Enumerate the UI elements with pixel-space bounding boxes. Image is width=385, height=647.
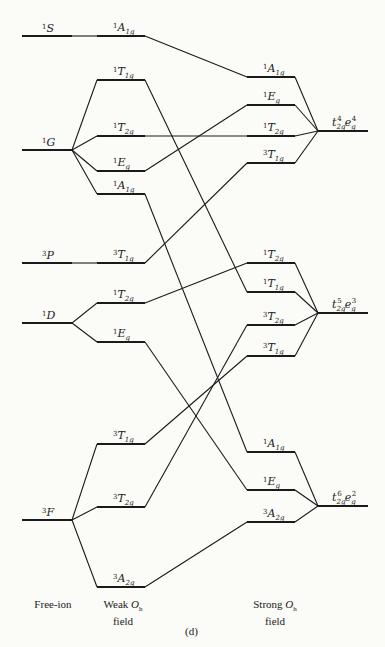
weak-to-strong-line (145, 356, 247, 444)
weak-to-strong-line (145, 194, 247, 452)
weak-to-strong-line (145, 522, 247, 587)
correlation-lines (72, 36, 318, 587)
strong-label-s5: 1T2g (263, 248, 284, 263)
strong-label-s1: 1A1g (263, 62, 285, 77)
strong-label-s10: 1Eg (263, 475, 281, 490)
strong-field-text: field (265, 615, 285, 627)
free-ion-label-3P: 3P (42, 249, 54, 262)
figure-caption: (d) (185, 625, 198, 637)
weak-label-w4: 1Eg (113, 156, 131, 171)
weak-field-column-label: Weak Oh field (88, 598, 158, 627)
strong-to-config-line (295, 292, 318, 313)
free-ion-levels: 1S1G3P1D3F (22, 22, 72, 520)
free-to-weak-line (72, 80, 97, 150)
weak-label-w3: 1T2g (113, 121, 134, 136)
strong-label-s8: 3T1g (263, 341, 284, 356)
strong-label-s11: 3A2g (263, 507, 285, 522)
config-label-c1: t2g4eg4 (332, 115, 357, 131)
weak-label-w11: 3A2g (113, 572, 135, 587)
weak-to-strong-line (145, 36, 247, 77)
free-ion-label-1S: 1S (42, 22, 54, 35)
strong-label-s7: 3T2g (263, 310, 284, 325)
weak-label-w9: 3T1g (113, 429, 134, 444)
weak-field-levels: 1A1g1T1g1T2g1Eg1A1g3T1g1T2g1Eg3T1g3T2g3A… (97, 21, 145, 587)
strong-to-config-line (295, 77, 318, 131)
weak-label-w5: 1A1g (113, 179, 135, 194)
strong-label-s2: 1Eg (263, 90, 281, 105)
free-ion-label-text: Free-ion (34, 598, 71, 610)
config-label-c3: t2g6eg2 (332, 490, 356, 506)
free-to-weak-line (72, 520, 97, 587)
strong-field-column-label: Strong Oh field (240, 598, 310, 627)
weak-to-strong-line (145, 263, 247, 303)
free-to-weak-line (72, 150, 97, 194)
strong-to-config-line (295, 263, 318, 313)
free-ion-column-label: Free-ion (18, 598, 88, 610)
weak-label-w2: 1T1g (113, 65, 134, 80)
weak-oh-sub: h (139, 605, 143, 613)
free-to-weak-line (72, 150, 97, 171)
weak-label-w8: 1Eg (113, 327, 131, 342)
weak-field-text: field (113, 615, 133, 627)
free-to-weak-line (72, 303, 97, 323)
strong-to-config-line (295, 506, 318, 522)
weak-to-strong-line (145, 80, 247, 292)
strong-oh-sub: h (293, 605, 297, 613)
weak-label-w7: 1T2g (113, 288, 134, 303)
weak-label-w1: 1A1g (113, 21, 135, 36)
free-ion-label-1G: 1G (42, 136, 55, 149)
strong-label-s3: 1T2g (263, 121, 284, 136)
strong-label-s6: 1T1g (263, 277, 284, 292)
weak-to-strong-line (145, 342, 247, 490)
strong-field-levels: 1A1g1Eg1T2g3T1g1T2g1T1g3T2g3T1g1A1g1Eg3A… (247, 62, 295, 522)
free-ion-label-3F: 3F (42, 506, 54, 519)
weak-label-w6: 3T1g (113, 248, 134, 263)
config-label-c2: t2g5eg3 (332, 297, 356, 313)
strong-label-text: Strong (253, 598, 282, 610)
weak-label-text: Weak (104, 598, 129, 610)
free-to-weak-line (72, 323, 97, 342)
weak-oh-symbol: O (131, 598, 139, 610)
weak-label-w10: 3T2g (113, 492, 134, 507)
weak-to-strong-line (145, 163, 247, 263)
strong-label-s4: 3T1g (263, 148, 284, 163)
correlation-diagram: 1S1G3P1D3F 1A1g1T1g1T2g1Eg1A1g3T1g1T2g1E… (0, 0, 385, 647)
weak-to-strong-line (145, 105, 247, 171)
strong-to-config-line (295, 105, 318, 131)
strong-label-s9: 1A1g (263, 437, 285, 452)
free-ion-label-1D: 1D (42, 309, 55, 322)
configuration-levels: t2g4eg4t2g5eg3t2g6eg2 (318, 115, 368, 506)
